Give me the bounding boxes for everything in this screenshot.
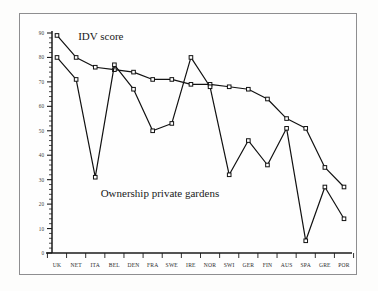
y-tick-label: 20 bbox=[39, 201, 45, 207]
data-point-marker bbox=[304, 127, 308, 131]
data-point-marker bbox=[266, 163, 270, 167]
data-point-marker bbox=[74, 78, 78, 82]
series-ownership-private-gardens bbox=[55, 56, 346, 243]
x-tick-label-swe: SWE bbox=[166, 262, 179, 268]
y-tick-label: 10 bbox=[39, 226, 45, 232]
data-point-marker bbox=[132, 70, 136, 74]
data-point-marker bbox=[151, 78, 155, 82]
data-point-marker bbox=[304, 239, 308, 243]
data-point-marker bbox=[208, 85, 212, 89]
x-tick-label-fin: FIN bbox=[263, 262, 273, 268]
x-tick-label-ire: IRE bbox=[186, 262, 196, 268]
x-tick-label-por: POR bbox=[338, 262, 350, 268]
data-point-marker bbox=[113, 63, 117, 67]
data-point-marker bbox=[342, 217, 346, 221]
series-idv-score bbox=[55, 34, 346, 189]
y-tick-label: 90 bbox=[39, 30, 45, 36]
data-point-marker bbox=[266, 97, 270, 101]
data-point-marker bbox=[227, 85, 231, 89]
data-point-marker bbox=[151, 129, 155, 133]
x-tick-label-bel: BEL bbox=[109, 262, 121, 268]
data-point-marker bbox=[342, 185, 346, 189]
line-chart-canvas: 0102030405060708090 UKNETITABELDENFRASWE… bbox=[0, 0, 378, 291]
data-point-marker bbox=[189, 56, 193, 60]
series-line bbox=[57, 35, 344, 187]
series-label-idv-score: IDV score bbox=[78, 30, 123, 42]
data-point-marker bbox=[93, 175, 97, 179]
x-tick-label-aus: AUS bbox=[281, 262, 293, 268]
data-point-marker bbox=[93, 65, 97, 69]
data-point-marker bbox=[247, 139, 251, 143]
data-point-marker bbox=[55, 34, 59, 38]
x-tick-label-nor: NOR bbox=[204, 262, 216, 268]
y-axis-tick-labels: 0102030405060708090 bbox=[39, 30, 45, 256]
x-tick-label-net: NET bbox=[70, 262, 82, 268]
x-tick-label-ita: ITA bbox=[91, 262, 100, 268]
y-tick-label: 60 bbox=[39, 103, 45, 109]
data-point-marker bbox=[132, 87, 136, 91]
series-line bbox=[57, 57, 344, 240]
chart-figure: 0102030405060708090 UKNETITABELDENFRASWE… bbox=[0, 0, 378, 291]
x-tick-label-swi: SWI bbox=[224, 262, 235, 268]
data-point-marker bbox=[189, 83, 193, 87]
x-tick-label-spa: SPA bbox=[301, 262, 311, 268]
data-point-marker bbox=[74, 56, 78, 60]
data-point-marker bbox=[55, 56, 59, 60]
data-series-layer bbox=[55, 34, 346, 243]
data-point-marker bbox=[285, 127, 289, 131]
axis-group bbox=[46, 31, 352, 253]
x-tick-label-ger: GER bbox=[242, 262, 254, 268]
y-tick-label: 80 bbox=[39, 54, 45, 60]
x-tick-label-gre: GRE bbox=[319, 262, 331, 268]
x-axis-tick-labels: UKNETITABELDENFRASWEIRENORSWIGERFINAUSSP… bbox=[53, 262, 350, 268]
y-tick-label: 50 bbox=[39, 128, 45, 134]
data-point-marker bbox=[227, 173, 231, 177]
data-point-marker bbox=[323, 185, 327, 189]
y-tick-label: 40 bbox=[39, 152, 45, 158]
data-point-marker bbox=[247, 87, 251, 91]
data-point-marker bbox=[285, 117, 289, 121]
data-point-marker bbox=[170, 78, 174, 82]
data-point-marker bbox=[323, 166, 327, 170]
x-tick-label-den: DEN bbox=[127, 262, 139, 268]
x-tick-label-uk: UK bbox=[53, 262, 61, 268]
x-tick-label-fra: FRA bbox=[147, 262, 158, 268]
y-tick-label: 30 bbox=[39, 177, 45, 183]
y-tick-label: 70 bbox=[39, 79, 45, 85]
series-label-ownership-private-gardens: Ownership private gardens bbox=[101, 187, 220, 199]
data-point-marker bbox=[170, 122, 174, 126]
y-tick-label: 0 bbox=[41, 250, 44, 256]
